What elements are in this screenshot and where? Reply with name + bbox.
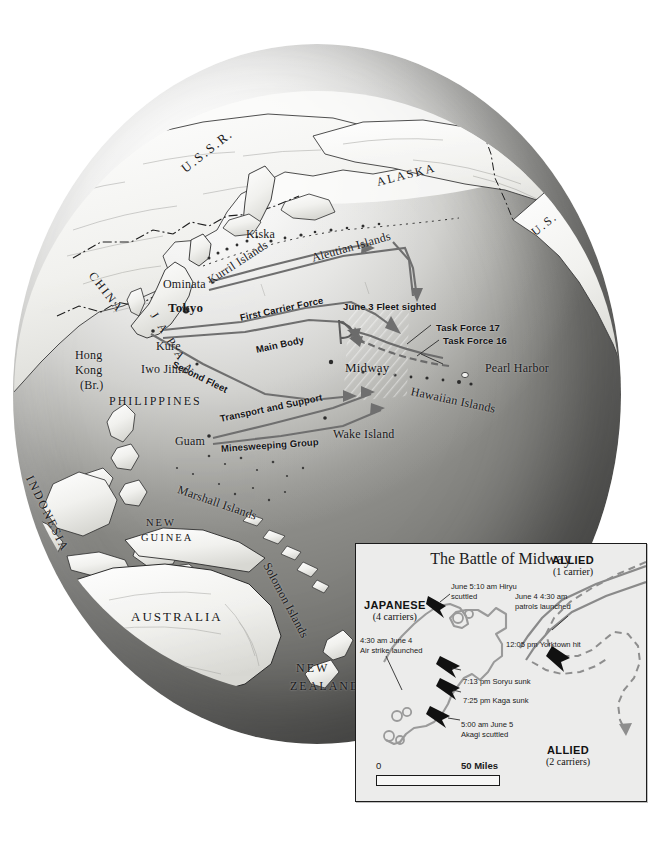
inset-event-hiryu-ship: Hiryu <box>497 582 517 591</box>
map-label-new: NEW <box>296 661 329 676</box>
scale-bar <box>376 775 500 786</box>
inset-event-yorktown-hit: 12:05 pm Yorktown hit <box>506 640 581 650</box>
inset-event-hiryu-scuttled-line1: June 5:10 am Hiryu <box>451 582 517 592</box>
inset-event-patrols-launched-line1: June 4 4:30 am <box>515 592 571 602</box>
japanese-force-carriers: (4 carriers) <box>364 611 426 622</box>
allied-2-carriers-title: ALLIED <box>546 744 590 756</box>
map-label-kong: Kong <box>75 363 102 378</box>
inset-event-air-strike-launched-line2: Air strike launched <box>360 646 422 656</box>
map-label-br: (Br.) <box>80 378 103 393</box>
inset-event-hiryu-scuttled-line2: scuttled <box>451 592 517 602</box>
inset-event-hiryu-scuttled: June 5:10 am Hiryuscuttled <box>451 582 517 602</box>
inset-event-akagi-scuttled-line1: 5:00 am June 5 <box>461 720 513 730</box>
inset-event-hiryu-time: June 5:10 am <box>451 582 497 591</box>
map-label-tokyo: Tokyo <box>168 300 203 316</box>
map-label-midway: Midway <box>345 360 390 376</box>
allied-1-carrier-title: ALLIED <box>552 554 594 566</box>
scale-zero-label: 0 <box>376 760 381 771</box>
inset-event-soryu-sunk: 7:13 pm Soryu sunk <box>463 677 531 687</box>
map-label-guam: Guam <box>175 434 205 449</box>
inset-event-patrols-launched-line2: patrols launched <box>515 602 571 612</box>
japanese-force: JAPANESE(4 carriers) <box>364 599 426 622</box>
allied-2-carriers: ALLIED(2 carriers) <box>546 744 590 767</box>
map-label-wake-island: Wake Island <box>333 427 395 442</box>
inset-event-soryu-sunk-line1: 7:13 pm Soryu sunk <box>463 677 531 687</box>
scale-max-label: 50 Miles <box>461 760 498 771</box>
inset-event-akagi-scuttled: 5:00 am June 5Akagi scuttled <box>461 720 513 740</box>
allied-2-carriers-carriers: (2 carriers) <box>546 756 590 767</box>
map-label-philippines: PHILIPPINES <box>109 394 202 409</box>
inset-event-air-strike-launched: 4:30 am June 4Air strike launched <box>360 636 422 656</box>
map-label-ominata: Ominata <box>163 277 206 292</box>
inset-event-patrols-launched: June 4 4:30 ampatrols launched <box>515 592 571 612</box>
inset-event-kaga-sunk-line1: 7:25 pm Kaga sunk <box>463 696 528 706</box>
inset-event-yorktown-hit-line1: 12:05 pm Yorktown hit <box>506 640 581 650</box>
map-label-guinea: GUINEA <box>141 532 193 543</box>
battle-of-midway-inset: The Battle of Midway <box>355 543 647 802</box>
inset-event-kaga-sunk: 7:25 pm Kaga sunk <box>463 696 528 706</box>
map-label-pearl-harbor: Pearl Harbor <box>485 361 549 376</box>
route-label-task-force-16: Task Force 16 <box>443 335 507 346</box>
japanese-force-title: JAPANESE <box>364 599 426 611</box>
map-label-australia: AUSTRALIA <box>131 609 223 625</box>
map-label-new: NEW <box>146 517 176 528</box>
route-label-task-force-17: Task Force 17 <box>436 322 500 333</box>
allied-1-carrier-carriers: (1 carrier) <box>552 566 594 577</box>
inset-event-air-strike-launched-line1: 4:30 am June 4 <box>360 636 422 646</box>
allied-1-carrier: ALLIED(1 carrier) <box>552 554 594 577</box>
inset-event-akagi-scuttled-line2: Akagi scuttled <box>461 730 513 740</box>
map-canvas: U.S.S.R.ALASKAU.S.CHINAKiskaOminataTokyo… <box>0 0 662 854</box>
map-label-zealand: ZEALAND <box>290 679 361 694</box>
map-label-hong: Hong <box>75 348 102 363</box>
route-label-june-3-fleet-sighted: June 3 Fleet sighted <box>343 301 436 312</box>
